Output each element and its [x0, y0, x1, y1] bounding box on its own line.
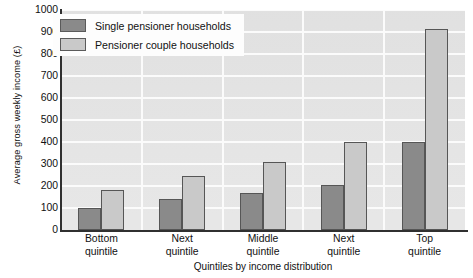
- x-axis-tick-label-line: quintile: [303, 246, 384, 259]
- legend-item: Pensioner couple households: [60, 38, 234, 51]
- legend-swatch-couple: [60, 38, 86, 51]
- y-axis-tick-label: 0: [14, 225, 58, 235]
- gridline-horizontal: [61, 119, 465, 121]
- y-axis-tick-label: 800: [14, 49, 58, 59]
- y-axis-tick-label: 400: [14, 137, 58, 147]
- x-axis-tick-label-line: quintile: [61, 246, 142, 259]
- x-axis-title: Quintiles by income distribution: [61, 261, 465, 272]
- x-axis-tick-label-line: quintile: [223, 246, 304, 259]
- y-axis-tick-label: 900: [14, 27, 58, 37]
- y-axis-tick-label: 300: [14, 159, 58, 169]
- legend-item-label: Pensioner couple households: [95, 39, 234, 51]
- y-axis-tick-label: 600: [14, 93, 58, 103]
- x-axis-tick-label-line: Next: [142, 233, 223, 246]
- y-axis-tick-labels: 01002003004005006007008009001000: [14, 0, 58, 278]
- y-axis-tick-label: 500: [14, 115, 58, 125]
- bar: [240, 193, 263, 230]
- legend-swatch-single: [60, 19, 86, 32]
- gridline-horizontal: [61, 10, 465, 11]
- bar: [402, 142, 425, 230]
- x-axis-tick-label-line: quintile: [384, 246, 465, 259]
- bar-chart: Average gross weekly income (£) 01002003…: [0, 0, 473, 278]
- gridline-vertical: [302, 10, 304, 230]
- legend-item-label: Single pensioner households: [95, 20, 231, 32]
- gridline-horizontal: [61, 75, 465, 77]
- bar: [321, 185, 344, 230]
- gridline-horizontal: [61, 97, 465, 99]
- x-axis-tick-label-line: quintile: [142, 246, 223, 259]
- x-axis-tick-label-line: Next: [303, 233, 384, 246]
- y-axis-tick-label: 100: [14, 203, 58, 213]
- x-axis-tick-label: Nextquintile: [142, 233, 223, 258]
- x-axis-tick-label-line: Top: [384, 233, 465, 246]
- y-axis-tick-label: 700: [14, 71, 58, 81]
- x-axis-tick-label: Nextquintile: [303, 233, 384, 258]
- x-axis-tick-label-line: Bottom: [61, 233, 142, 246]
- x-axis-line: [60, 230, 468, 232]
- legend-item: Single pensioner households: [60, 19, 234, 32]
- x-axis-tick-label: Middlequintile: [223, 233, 304, 258]
- bar: [344, 142, 367, 230]
- gridline-vertical: [383, 10, 385, 230]
- bar: [425, 29, 448, 230]
- x-axis-tick-label-line: Middle: [223, 233, 304, 246]
- bar: [78, 208, 101, 230]
- bar: [101, 190, 124, 230]
- bar: [182, 176, 205, 230]
- bar: [263, 162, 286, 230]
- legend: Single pensioner householdsPensioner cou…: [53, 14, 244, 56]
- x-axis-tick-label: Bottomquintile: [61, 233, 142, 258]
- bar: [159, 199, 182, 230]
- y-axis-tick-label: 1000: [14, 5, 58, 15]
- y-axis-tick-label: 200: [14, 181, 58, 191]
- x-axis-tick-label: Topquintile: [384, 233, 465, 258]
